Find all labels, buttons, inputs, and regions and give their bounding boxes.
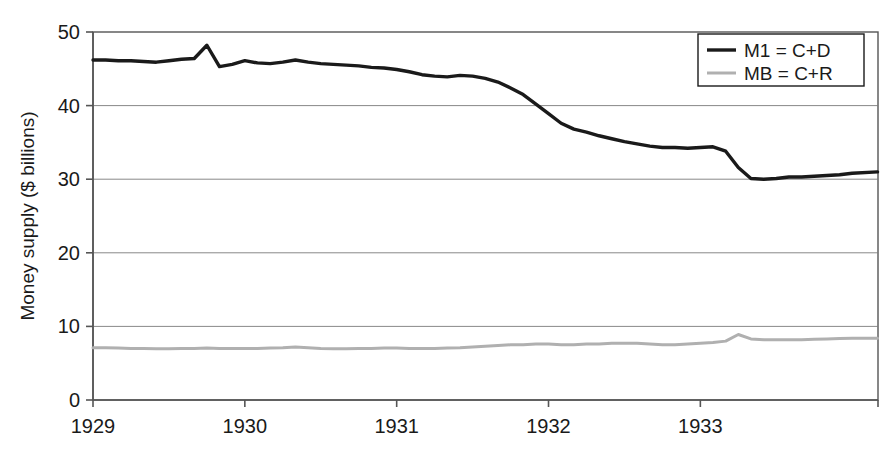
x-tick-label-1933: 1933	[678, 415, 723, 437]
x-tick-label-1929: 1929	[71, 415, 116, 437]
y-tick-label-20: 20	[58, 242, 80, 264]
x-tick-label-1931: 1931	[374, 415, 419, 437]
y-tick-label-0: 0	[69, 389, 80, 411]
legend-label-m1: M1 = C+D	[744, 40, 831, 61]
x-axis	[93, 400, 878, 407]
x-tick-label-1930: 1930	[223, 415, 268, 437]
data-series-layer	[93, 45, 878, 349]
y-axis	[86, 32, 93, 400]
y-axis-title: Money supply ($ billions)	[17, 111, 38, 320]
y-axis-tick-labels: 01020304050	[58, 21, 80, 411]
legend-label-mb: MB = C+R	[744, 63, 833, 84]
gridlines	[93, 106, 878, 327]
y-tick-label-40: 40	[58, 95, 80, 117]
x-axis-tick-labels: 19291930193119321933	[71, 415, 723, 437]
x-tick-label-1932: 1932	[526, 415, 571, 437]
chart-figure: 01020304050 19291930193119321933 Money s…	[0, 0, 886, 452]
y-tick-label-10: 10	[58, 315, 80, 337]
series-line-mb	[93, 335, 878, 349]
money-supply-line-chart: 01020304050 19291930193119321933 Money s…	[0, 0, 886, 452]
y-tick-label-50: 50	[58, 21, 80, 43]
y-tick-label-30: 30	[58, 168, 80, 190]
chart-legend: M1 = C+DMB = C+R	[698, 34, 864, 86]
